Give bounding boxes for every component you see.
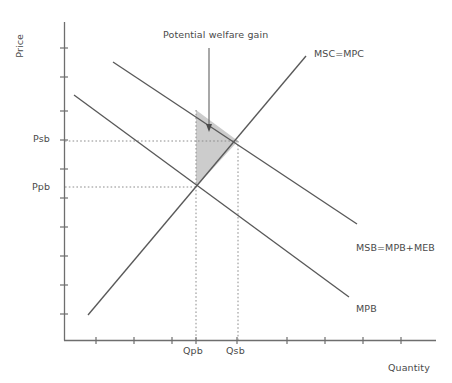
y-tick-label-psb: Psb (33, 133, 50, 144)
x-tick-label-qsb: Qsb (226, 345, 245, 356)
x-tick-label-qpb: Qpb (183, 345, 203, 356)
figure-canvas: Price Quantity Psb Ppb Qpb Qsb MSC=MPC M… (0, 0, 452, 383)
curve-label-mpb: MPB (356, 303, 377, 314)
y-axis-label: Price (14, 34, 25, 58)
x-axis-label: Quantity (388, 362, 430, 373)
economics-diagram-svg (0, 0, 452, 383)
curve-label-msc-mpc: MSC=MPC (314, 48, 364, 59)
curve-msb (113, 62, 357, 224)
curve-label-msb: MSB=MPB+MEB (356, 242, 435, 253)
y-tick-label-ppb: Ppb (32, 181, 50, 192)
welfare-gain-annotation-text: Potential welfare gain (163, 29, 268, 40)
